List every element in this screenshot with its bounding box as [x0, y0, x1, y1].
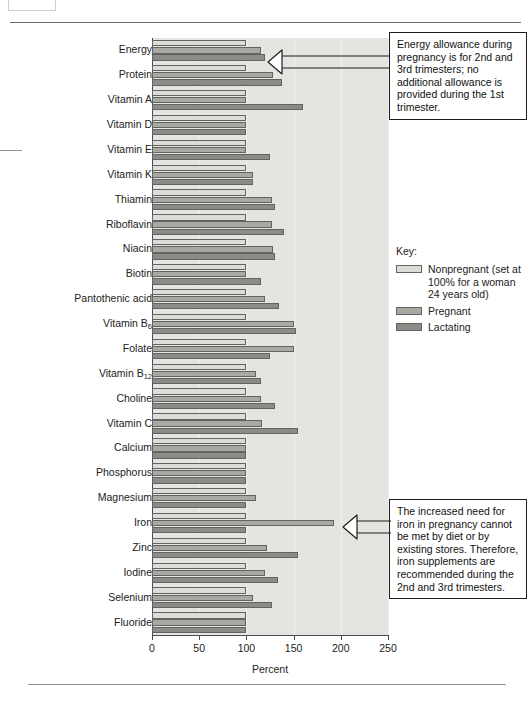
category-label-vitamin-e: Vitamin E — [2, 143, 152, 155]
bar-nonpregnant-niacin — [152, 239, 246, 245]
gridline-150 — [294, 38, 295, 635]
bar-nonpregnant-biotin — [152, 264, 246, 270]
category-label-magnesium: Magnesium — [2, 491, 152, 503]
x-tick-200 — [341, 635, 342, 640]
bar-lactating-vitamin-a — [152, 104, 303, 110]
category-label-protein: Protein — [2, 68, 152, 80]
category-label-calcium: Calcium — [2, 441, 152, 453]
legend-swatch-np — [396, 265, 422, 273]
bar-pregnant-vitamin-c — [152, 420, 262, 426]
category-label-niacin: Niacin — [2, 242, 152, 254]
bar-nonpregnant-vitamin-d — [152, 115, 246, 121]
x-tick-label-200: 200 — [332, 642, 350, 654]
x-tick-150 — [294, 635, 295, 640]
category-label-vitamin-d: Vitamin D — [2, 118, 152, 130]
category-label-riboflavin: Riboflavin — [2, 218, 152, 230]
bar-nonpregnant-vitamin-k — [152, 165, 246, 171]
bar-lactating-zinc — [152, 552, 298, 558]
top-rule — [10, 22, 521, 23]
legend-label-pg: Pregnant — [428, 305, 471, 318]
bar-lactating-folate — [152, 353, 270, 359]
bar-pregnant-energy — [152, 47, 261, 53]
bar-pregnant-selenium — [152, 595, 253, 601]
bar-pregnant-vitamin-b6 — [152, 321, 294, 327]
bar-lactating-thiamin — [152, 204, 275, 210]
bar-nonpregnant-protein — [152, 65, 246, 71]
legend-swatch-pg — [396, 307, 422, 315]
bar-nonpregnant-vitamin-b12 — [152, 364, 246, 370]
x-tick-label-50: 50 — [193, 642, 205, 654]
bar-lactating-iodine — [152, 577, 278, 583]
bar-nonpregnant-thiamin — [152, 189, 246, 195]
legend-label-lc: Lactating — [428, 321, 471, 334]
bar-lactating-vitamin-k — [152, 179, 253, 185]
category-label-zinc: Zinc — [2, 541, 152, 553]
bar-lactating-protein — [152, 79, 282, 85]
category-label-selenium: Selenium — [2, 591, 152, 603]
legend-item-pg: Pregnant — [396, 305, 524, 318]
bar-lactating-vitamin-d — [152, 129, 246, 135]
bar-nonpregnant-magnesium — [152, 488, 246, 494]
bar-lactating-selenium — [152, 602, 272, 608]
x-tick-50 — [199, 635, 200, 640]
bar-nonpregnant-pantothenic-acid — [152, 289, 246, 295]
category-label-vitamin-b6: Vitamin B6 — [2, 317, 152, 331]
legend-item-np: Nonpregnant (set at 100% for a woman 24 … — [396, 263, 524, 301]
category-label-folate: Folate — [2, 342, 152, 354]
page-corner-marker — [8, 0, 56, 11]
bar-nonpregnant-vitamin-c — [152, 413, 246, 419]
category-label-biotin: Biotin — [2, 267, 152, 279]
x-tick-250 — [388, 635, 389, 640]
bar-pregnant-biotin — [152, 271, 246, 277]
bar-pregnant-fluoride — [152, 619, 246, 625]
bar-nonpregnant-calcium — [152, 438, 246, 444]
x-axis-title: Percent — [252, 663, 288, 675]
chart-legend: Key: Nonpregnant (set at 100% for a woma… — [396, 245, 524, 338]
bar-pregnant-thiamin — [152, 197, 272, 203]
legend-item-lc: Lactating — [396, 321, 524, 334]
bar-pregnant-choline — [152, 396, 261, 402]
category-label-vitamin-c: Vitamin C — [2, 417, 152, 429]
bar-lactating-magnesium — [152, 502, 246, 508]
bar-nonpregnant-fluoride — [152, 612, 246, 618]
legend-entries: Nonpregnant (set at 100% for a woman 24 … — [396, 263, 524, 334]
x-tick-0 — [152, 635, 153, 640]
category-label-fluoride: Fluoride — [2, 616, 152, 628]
bar-lactating-choline — [152, 403, 275, 409]
bar-lactating-biotin — [152, 278, 261, 284]
x-tick-100 — [246, 635, 247, 640]
bar-pregnant-vitamin-e — [152, 147, 246, 153]
callout-energy: Energy allowance during pregnancy is for… — [389, 32, 527, 120]
bar-pregnant-vitamin-d — [152, 122, 246, 128]
bar-lactating-iron — [152, 527, 246, 533]
category-label-iodine: Iodine — [2, 566, 152, 578]
bar-pregnant-calcium — [152, 445, 246, 451]
bar-lactating-fluoride — [152, 627, 246, 633]
bar-nonpregnant-phosphorus — [152, 463, 246, 469]
bar-pregnant-folate — [152, 346, 294, 352]
category-label-pantothenic-acid: Pantothenic acid — [2, 292, 152, 304]
bar-nonpregnant-energy — [152, 40, 246, 46]
bar-lactating-vitamin-b12 — [152, 378, 261, 384]
bar-nonpregnant-vitamin-a — [152, 90, 246, 96]
x-axis-line — [152, 635, 389, 636]
bar-lactating-phosphorus — [152, 477, 246, 483]
bar-lactating-niacin — [152, 253, 275, 259]
x-tick-label-150: 150 — [285, 642, 303, 654]
bar-pregnant-vitamin-k — [152, 172, 253, 178]
bar-nonpregnant-riboflavin — [152, 214, 246, 220]
bar-lactating-calcium — [152, 452, 246, 458]
bar-pregnant-vitamin-a — [152, 97, 246, 103]
bar-nonpregnant-choline — [152, 388, 246, 394]
bar-lactating-riboflavin — [152, 229, 284, 235]
bar-nonpregnant-iodine — [152, 563, 246, 569]
category-label-iron: Iron — [2, 516, 152, 528]
bar-lactating-vitamin-c — [152, 428, 298, 434]
bar-pregnant-magnesium — [152, 495, 256, 501]
bar-nonpregnant-selenium — [152, 587, 246, 593]
bar-lactating-pantothenic-acid — [152, 303, 279, 309]
bar-pregnant-riboflavin — [152, 221, 272, 227]
legend-title: Key: — [396, 245, 524, 257]
bar-nonpregnant-zinc — [152, 538, 246, 544]
category-label-phosphorus: Phosphorus — [2, 466, 152, 478]
